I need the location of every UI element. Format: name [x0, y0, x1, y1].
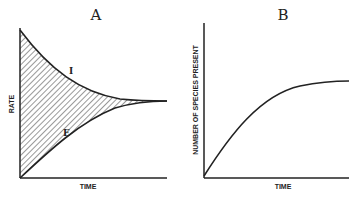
species-curve — [204, 81, 349, 176]
panel-b: B TIME NUMBER OF SPECIES PRESENT — [192, 6, 349, 190]
hatched-area — [20, 30, 167, 178]
figure: A I E TIME RATE B TIME NUMBER OF SPECIES… — [0, 0, 364, 198]
panel-a: A I E TIME RATE — [8, 6, 167, 190]
curve-e-label: E — [63, 128, 70, 138]
y-label-a: RATE — [8, 94, 15, 113]
y-label-b: NUMBER OF SPECIES PRESENT — [192, 44, 199, 154]
x-label-a: TIME — [80, 183, 97, 190]
panel-a-title: A — [90, 6, 102, 24]
panel-b-title: B — [277, 6, 288, 24]
curve-i-label: I — [69, 66, 73, 76]
x-label-b: TIME — [275, 183, 292, 190]
